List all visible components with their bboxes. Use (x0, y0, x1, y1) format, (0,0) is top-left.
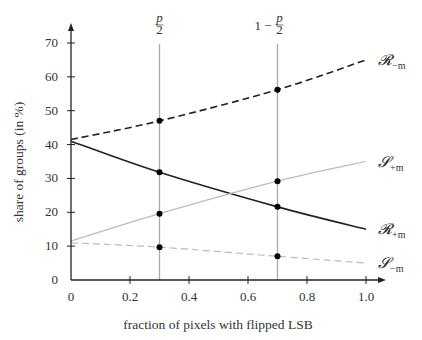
x-axis-arrow-icon (378, 277, 386, 283)
data-point (157, 244, 163, 250)
data-point (157, 118, 163, 124)
y-tick-label: 70 (45, 35, 58, 50)
series-label: 𝓡+m (378, 221, 406, 240)
x-axis-label: fraction of pixels with flipped LSB (123, 317, 312, 332)
x-tick-label: 0.6 (240, 289, 257, 304)
data-point (275, 178, 281, 184)
x-tick-label: 0.4 (181, 289, 198, 304)
y-axis-arrow-icon (68, 23, 74, 31)
svg-text:2: 2 (156, 22, 163, 37)
axes: 00.20.40.60.81.0010203040506070 (45, 23, 386, 304)
data-point (157, 211, 163, 217)
data-points (157, 87, 281, 260)
data-point (275, 253, 281, 259)
y-tick-label: 40 (45, 137, 58, 152)
series-label: 𝓢−m (378, 255, 404, 274)
y-tick-label: 30 (45, 170, 58, 185)
series-line-rm-minus (71, 60, 366, 140)
x-tick-label: 0 (68, 289, 75, 304)
x-tick-label: 1.0 (358, 289, 374, 304)
y-tick-label: 50 (45, 103, 58, 118)
x-tick-label: 0.8 (299, 289, 315, 304)
series-line-rm-plus (71, 141, 366, 229)
y-tick-label: 0 (52, 272, 59, 287)
chart: p21 −p2 00.20.40.60.81.0010203040506070 … (0, 0, 422, 340)
series-label: 𝓢+m (378, 154, 404, 173)
x-tick-label: 0.2 (122, 289, 138, 304)
y-axis-label: share of groups (in %) (11, 102, 26, 223)
series-line-sm-minus (71, 243, 366, 263)
series-line-sm-plus (71, 162, 366, 242)
data-point (275, 87, 281, 93)
svg-text:2: 2 (276, 22, 283, 37)
series-lines (71, 60, 366, 263)
y-tick-label: 10 (45, 238, 58, 253)
svg-text:1 −: 1 − (254, 18, 271, 33)
vertical-markers: p21 −p2 (155, 10, 283, 280)
y-tick-label: 20 (45, 204, 58, 219)
data-point (275, 204, 281, 210)
data-point (157, 169, 163, 175)
vertical-marker-label: 1 −p2 (254, 10, 283, 37)
series-label: 𝓡−m (378, 52, 406, 71)
vertical-marker-label: p2 (155, 10, 163, 37)
y-tick-label: 60 (45, 69, 58, 84)
